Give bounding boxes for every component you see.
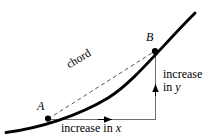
figure-canvas: A B chord increase in x increasein y	[0, 0, 218, 139]
increase-in-y-label: increasein y	[163, 68, 202, 93]
increase-in-x-variable: x	[116, 121, 121, 135]
increase-in-y-variable: y	[175, 80, 180, 94]
point-b-marker	[152, 48, 158, 54]
point-a-marker	[45, 116, 51, 122]
increase-in-x-text: increase in	[61, 121, 116, 135]
increase-in-y-line2-text: in	[163, 80, 175, 94]
point-a-label: A	[37, 100, 44, 113]
point-b-label: B	[146, 31, 153, 44]
increase-in-x-label: increase in x	[61, 122, 121, 135]
